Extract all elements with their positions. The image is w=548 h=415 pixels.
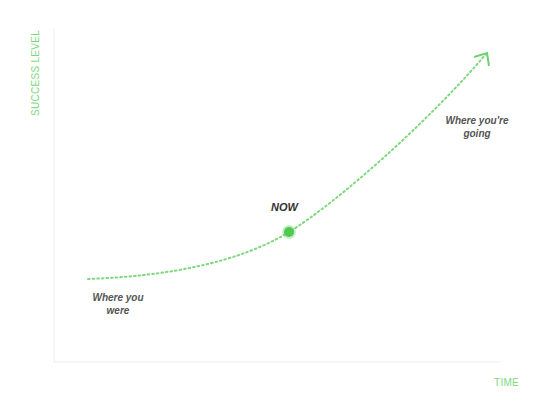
growth-curve: [88, 54, 486, 279]
future-label-line-2: going: [440, 127, 514, 140]
past-label-line-1: Where you: [90, 291, 146, 304]
past-label: Where you were: [90, 291, 146, 317]
future-label-line-1: Where you're: [440, 114, 514, 127]
past-label-line-2: were: [90, 304, 146, 317]
x-axis-label: TIME: [494, 377, 519, 388]
now-label: NOW: [271, 201, 298, 214]
y-axis-label: SUCCESS LEVEL: [30, 30, 41, 116]
future-label: Where you're going: [440, 114, 514, 140]
now-marker-dot: [284, 227, 294, 237]
